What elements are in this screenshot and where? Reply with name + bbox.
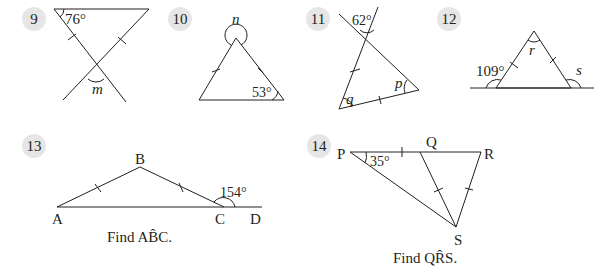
unknown-m-label: m <box>92 81 103 97</box>
unknown-q-label: q <box>346 91 354 107</box>
vertex-B: B <box>135 151 145 167</box>
diagram-9: 76° m <box>54 9 149 102</box>
diagram-12: 109° r s <box>470 31 594 88</box>
angle-53-label: 53° <box>252 85 272 100</box>
vertex-Q: Q <box>426 134 437 150</box>
diagram-10: n 53° <box>199 11 284 100</box>
vertex-D: D <box>250 211 261 227</box>
geometry-exercise-page: 9 10 11 12 13 14 76° m n 53° <box>0 0 613 272</box>
vertex-P: P <box>337 146 345 162</box>
vertex-A: A <box>52 211 63 227</box>
angle-76-label: 76° <box>65 11 86 27</box>
vertex-R: R <box>484 146 494 162</box>
unknown-r-label: r <box>529 42 535 58</box>
vertex-C: C <box>215 211 225 227</box>
diagram-14: P Q R S 35° <box>337 134 494 248</box>
angle-109-label: 109° <box>476 63 505 79</box>
angle-35-label: 35° <box>370 154 390 169</box>
caption-13: Find AB̂C. <box>107 229 172 246</box>
angle-154-label: 154° <box>220 185 247 200</box>
diagram-13: B A C D 154° <box>52 151 262 227</box>
unknown-s-label: s <box>576 62 582 78</box>
unknown-p-label: p <box>394 75 403 91</box>
angle-62-label: 62° <box>352 13 372 28</box>
diagram-11: 62° p q <box>339 7 419 109</box>
vertex-S: S <box>454 232 462 248</box>
unknown-n-label: n <box>232 11 240 27</box>
diagrams: 76° m n 53° 62° p q <box>0 0 613 272</box>
caption-14: Find QR̂S. <box>393 250 457 267</box>
